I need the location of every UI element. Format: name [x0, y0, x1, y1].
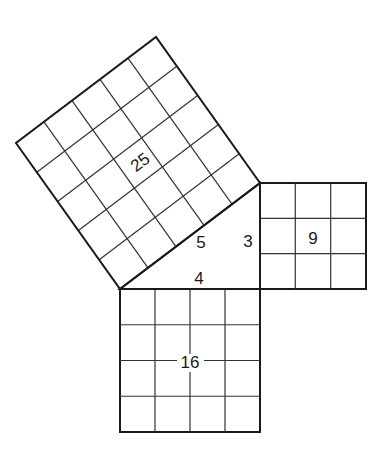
grid-line	[78, 125, 218, 231]
grid-line	[58, 95, 198, 201]
label-9: 9	[308, 229, 317, 248]
grid-line	[128, 58, 232, 204]
grid-line	[44, 122, 148, 268]
right-triangle	[120, 183, 260, 289]
label-hypotenuse: 5	[196, 233, 205, 252]
pythagorean-diagram: 25 9 16 5 3 4	[0, 0, 388, 451]
label-16: 16	[181, 353, 200, 372]
label-25: 25	[127, 149, 154, 176]
grid-line	[99, 154, 239, 260]
grid-line	[37, 66, 177, 172]
grid-line	[72, 101, 176, 247]
grid-line	[100, 79, 204, 225]
label-vertical-leg: 3	[243, 232, 252, 251]
label-horizontal-leg: 4	[194, 269, 203, 288]
